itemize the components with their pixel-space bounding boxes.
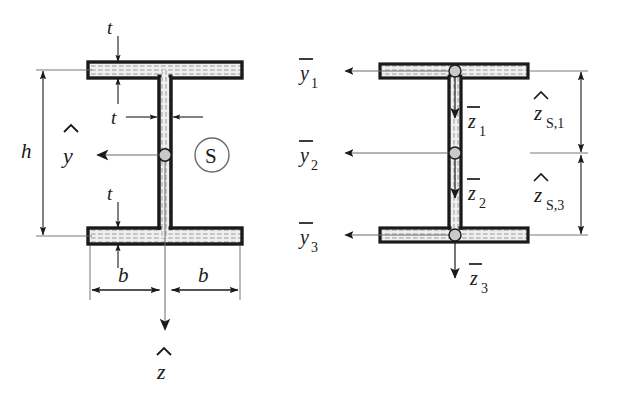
z-hat-s3-accent-icon xyxy=(534,174,548,181)
label-y-bar-2-subscript: 2 xyxy=(311,158,318,173)
label-y-bar-3: y xyxy=(298,226,309,249)
label-z-bar-3: z xyxy=(469,267,478,289)
node-top-flange xyxy=(449,65,461,77)
label-y-bar-1: y xyxy=(298,62,309,85)
label-axis-z: z xyxy=(156,359,166,384)
label-half-width-right: b xyxy=(198,263,209,287)
figure-root: t t t h xyxy=(0,0,620,401)
label-z-hat-s1-subscript: S,1 xyxy=(546,116,564,131)
label-half-width-left: b xyxy=(118,263,129,287)
engineering-figure-svg: t t t h xyxy=(0,0,620,401)
label-z-hat-s3-subscript: S,3 xyxy=(546,198,564,213)
y-hat-accent-icon xyxy=(64,125,78,132)
shear-center-node xyxy=(159,149,171,161)
label-y-bar-3-subscript: 3 xyxy=(311,240,318,255)
label-flange-thickness-top: t xyxy=(107,17,113,38)
label-z-bar-1: z xyxy=(467,110,476,132)
label-axis-y: y xyxy=(61,143,73,168)
label-y-bar-1-subscript: 1 xyxy=(311,76,318,91)
node-web-midpoint xyxy=(449,147,461,159)
z-hat-accent-icon xyxy=(157,348,171,355)
right-cross-section-group: y 1 y 2 y 3 z 1 z 2 xyxy=(298,59,588,296)
left-cross-section-group: t t t h xyxy=(21,17,242,384)
z-hat-s1-accent-icon xyxy=(534,92,548,99)
label-shear-center: S xyxy=(205,144,217,168)
label-web-thickness: t xyxy=(111,107,117,128)
label-z-bar-3-subscript: 3 xyxy=(481,281,488,296)
label-height: h xyxy=(21,139,32,163)
label-flange-thickness-bottom: t xyxy=(107,183,113,204)
label-y-bar-2: y xyxy=(298,144,309,167)
label-z-hat-s1: z xyxy=(533,101,542,125)
label-z-bar-2: z xyxy=(467,182,476,204)
label-z-bar-1-subscript: 1 xyxy=(479,124,486,139)
label-z-hat-s3: z xyxy=(533,183,542,207)
node-bottom-flange xyxy=(449,229,461,241)
label-z-bar-2-subscript: 2 xyxy=(479,196,486,211)
